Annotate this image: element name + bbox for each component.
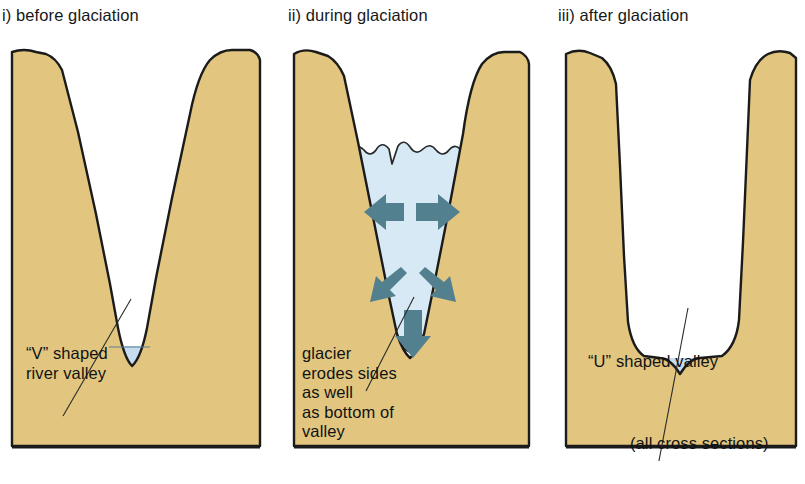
cross-section-v-valley xyxy=(0,46,266,461)
panel-before-glaciation: i) before glaciation “V” shaped river va… xyxy=(0,0,266,484)
caption-u-shaped-valley: “U” shaped valley xyxy=(588,352,718,372)
figure-after xyxy=(556,46,805,465)
caption-v-shaped-river-valley: “V” shaped river valley xyxy=(26,344,108,383)
diagram-canvas: i) before glaciation “V” shaped river va… xyxy=(0,0,805,484)
panel-title-after: iii) after glaciation xyxy=(558,6,689,25)
caption-glacier-erodes: glacier erodes sides as well as bottom o… xyxy=(302,344,397,442)
panel-during-glaciation: ii) during glaciation xyxy=(286,0,534,484)
panel-title-during: ii) during glaciation xyxy=(288,6,428,25)
panel-after-glaciation: iii) after glaciation “U” shaped valley … xyxy=(556,0,805,484)
cross-section-u-valley xyxy=(556,46,805,461)
note-all-cross-sections: (all cross sections) xyxy=(630,434,769,454)
figure-before xyxy=(0,46,266,465)
panel-title-before: i) before glaciation xyxy=(2,6,139,25)
